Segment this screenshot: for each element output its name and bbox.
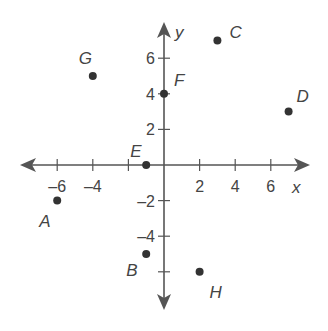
x-tick-label: 6 bbox=[266, 178, 275, 195]
x-tick-label: –4 bbox=[84, 178, 102, 195]
x-axis-label: x bbox=[291, 178, 301, 197]
point-f bbox=[160, 90, 168, 98]
x-tick-label: 2 bbox=[195, 178, 204, 195]
coordinate-plane: –6–4246 642–2–4 x y ABCDEFGH bbox=[0, 0, 328, 331]
point-b bbox=[142, 250, 150, 258]
point-g bbox=[89, 72, 97, 80]
y-tick-label: 4 bbox=[146, 86, 155, 103]
point-d bbox=[285, 108, 293, 116]
point-label-c: C bbox=[229, 23, 242, 42]
point-label-a: A bbox=[38, 212, 50, 231]
y-tick-label: –4 bbox=[137, 228, 155, 245]
point-c bbox=[213, 36, 221, 44]
point-label-g: G bbox=[79, 49, 92, 68]
point-label-e: E bbox=[130, 142, 142, 161]
y-tick-label: 6 bbox=[146, 50, 155, 67]
y-ticks: 642–2–4 bbox=[137, 50, 170, 272]
points: ABCDEFGH bbox=[38, 23, 309, 301]
x-tick-label: –6 bbox=[48, 178, 66, 195]
x-tick-label: 4 bbox=[231, 178, 240, 195]
y-tick-label: –2 bbox=[137, 193, 155, 210]
point-label-b: B bbox=[126, 261, 137, 280]
point-label-d: D bbox=[297, 87, 309, 106]
y-axis-label: y bbox=[174, 23, 185, 42]
point-label-h: H bbox=[210, 283, 223, 302]
point-a bbox=[53, 197, 61, 205]
point-h bbox=[196, 268, 204, 276]
point-label-f: F bbox=[174, 71, 186, 90]
point-e bbox=[142, 161, 150, 169]
y-tick-label: 2 bbox=[146, 121, 155, 138]
